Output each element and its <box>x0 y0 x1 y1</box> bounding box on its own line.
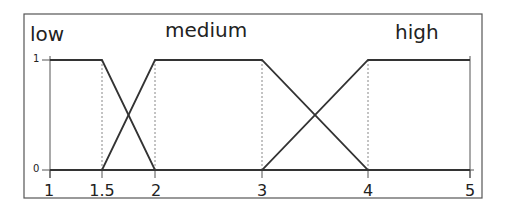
y-tick-0: 0 <box>33 163 39 174</box>
plot-area <box>42 56 474 178</box>
x-tick-5: 5 <box>465 181 475 200</box>
label-low: low <box>30 22 64 46</box>
x-tick-1-5: 1.5 <box>89 181 114 200</box>
x-tick-4: 4 <box>363 181 373 200</box>
x-tick-2: 2 <box>151 181 161 200</box>
x-tick-1: 1 <box>44 181 54 200</box>
series-low <box>50 60 470 170</box>
series-high <box>50 60 470 170</box>
x-tick-3: 3 <box>257 181 267 200</box>
label-high: high <box>395 20 439 44</box>
y-tick-1: 1 <box>33 53 39 64</box>
series-medium <box>50 60 470 170</box>
label-medium: medium <box>165 18 247 42</box>
